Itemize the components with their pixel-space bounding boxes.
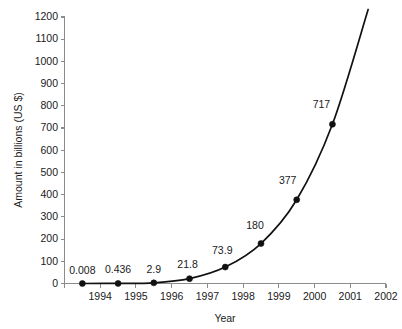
data-point-marker — [115, 280, 121, 286]
data-point-marker — [294, 197, 300, 203]
x-axis-tick-labels: 199419951996199719981999200020012002 — [89, 290, 398, 302]
y-tick-label: 0 — [52, 277, 58, 289]
data-point-label: 377 — [279, 174, 297, 186]
y-tick-label: 200 — [40, 232, 58, 244]
y-tick-label: 900 — [40, 77, 58, 89]
data-point-markers — [79, 121, 335, 286]
x-tick-label: 2002 — [374, 290, 398, 302]
y-tick-label: 800 — [40, 99, 58, 111]
y-axis-tick-labels: 0100200300400500600700800900100011001200 — [35, 10, 59, 289]
data-point-marker — [329, 121, 335, 127]
data-point-label: 21.8 — [177, 258, 198, 270]
line-chart-canvas: 0100200300400500600700800900100011001200… — [0, 0, 402, 329]
y-tick-label: 300 — [40, 210, 58, 222]
y-tick-label: 500 — [40, 166, 58, 178]
data-point-label: 180 — [246, 219, 264, 231]
data-point-marker — [222, 264, 228, 270]
data-point-label: 2.9 — [147, 263, 162, 275]
x-tick-label: 1994 — [89, 290, 113, 302]
y-tick-label: 1200 — [35, 10, 59, 22]
data-point-label: 717 — [313, 98, 331, 110]
data-point-marker — [258, 241, 264, 247]
data-point-label: 0.008 — [69, 264, 95, 276]
y-tick-label: 700 — [40, 121, 58, 133]
data-point-marker — [151, 280, 157, 286]
chart-figure: 0100200300400500600700800900100011001200… — [0, 0, 402, 329]
x-tick-label: 1999 — [267, 290, 291, 302]
x-tick-label: 2001 — [339, 290, 363, 302]
y-tick-label: 400 — [40, 188, 58, 200]
y-tick-label: 100 — [40, 255, 58, 267]
x-tick-label: 1996 — [160, 290, 184, 302]
data-point-label: 73.9 — [212, 244, 233, 256]
data-point-label: 0.436 — [105, 263, 131, 275]
data-series-line — [82, 9, 368, 283]
x-tick-label: 2000 — [303, 290, 327, 302]
y-axis-tick-marks — [61, 17, 65, 284]
x-tick-label: 1995 — [124, 290, 148, 302]
x-tick-label: 1998 — [231, 290, 255, 302]
y-tick-label: 600 — [40, 144, 58, 156]
x-axis-title: Year — [214, 312, 236, 324]
data-point-marker — [79, 281, 85, 287]
y-tick-label: 1100 — [35, 32, 58, 44]
x-tick-label: 1997 — [196, 290, 220, 302]
data-point-marker — [187, 276, 193, 282]
data-point-labels: 0.0080.4362.921.873.91803777171234 — [69, 0, 376, 275]
y-axis-title: Amount in billions (US $) — [12, 92, 24, 208]
y-tick-label: 1000 — [35, 55, 59, 67]
